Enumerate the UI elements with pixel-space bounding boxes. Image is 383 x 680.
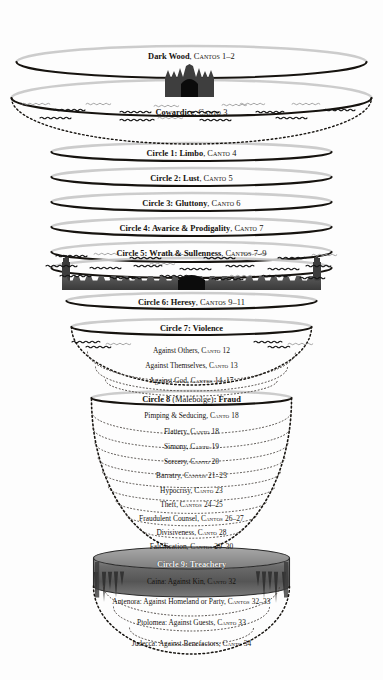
frozen-lake-cocytus-icon	[94, 547, 290, 654]
inferno-diagram-svg	[0, 0, 383, 680]
circle-7-bowl	[72, 327, 312, 396]
circle-8-bowl	[92, 399, 292, 551]
hell-gate-icon	[165, 64, 214, 97]
inferno-diagram: Dark Wood, Cantos 1–2Cowardice, Canto 3C…	[0, 0, 383, 680]
wind-storm-squiggles-icon	[22, 103, 355, 348]
